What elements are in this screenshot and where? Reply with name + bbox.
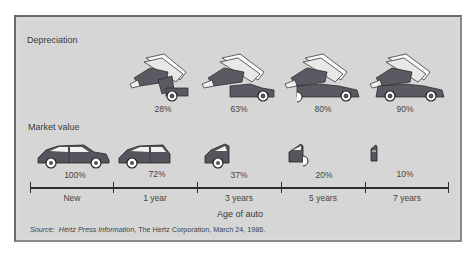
depreciation-label: Depreciation [27, 35, 78, 45]
car-icon-full [36, 138, 112, 168]
source-note: Source: Hertz Press Information, The Her… [30, 225, 265, 234]
depreciation-car-icon-63pct [200, 50, 276, 104]
market-value-3yr: 37% [219, 170, 259, 180]
market-value-1yr: 72% [137, 169, 177, 179]
x-tick-label-1yr: 1 year [125, 193, 185, 203]
depreciation-car-icon-80pct [283, 50, 361, 104]
depreciation-value-1yr: 28% [143, 104, 183, 114]
source-prefix: Source: [30, 225, 55, 234]
x-axis-title: Age of auto [205, 209, 275, 219]
depreciation-value-3yr: 63% [219, 104, 259, 114]
x-axis-tick [197, 182, 198, 193]
market-value-7yr: 10% [385, 169, 425, 179]
x-axis-tick [281, 182, 282, 193]
car-icon-10pct [368, 143, 380, 165]
x-axis-tick [113, 182, 114, 193]
x-tick-label-new: New [42, 193, 102, 203]
source-rest: , The Hertz Corporation, March 24, 1986. [134, 225, 265, 234]
car-icon-20pct [287, 140, 307, 168]
x-axis-line [30, 187, 449, 189]
x-tick-label-3yr: 3 years [209, 193, 269, 203]
car-icon-37pct [203, 138, 233, 168]
x-axis-tick [365, 182, 366, 193]
depreciation-car-icon-90pct [368, 50, 448, 104]
market-value-label: Market value [28, 122, 80, 132]
market-value-5yr: 20% [304, 170, 344, 180]
source-publication: Hertz Press Information [59, 225, 135, 234]
depreciation-car-icon-28pct [128, 50, 192, 104]
depreciation-value-7yr: 90% [385, 104, 425, 114]
x-tick-label-7yr: 7 years [377, 193, 437, 203]
x-axis-tick [448, 182, 449, 193]
x-axis-tick [30, 182, 31, 193]
car-icon-72pct [117, 138, 173, 168]
market-value-new: 100% [55, 170, 95, 180]
x-tick-label-5yr: 5 years [293, 193, 353, 203]
depreciation-value-5yr: 80% [303, 104, 343, 114]
